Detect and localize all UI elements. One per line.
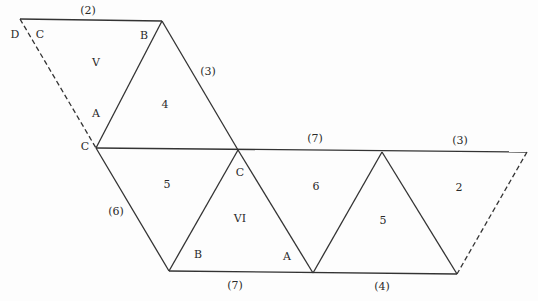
edge-T-CL [96,21,162,148]
edge-label: (7) [227,280,243,291]
vertex-label: D [11,29,20,40]
vertex-label: C [36,29,44,40]
edge-T-M [162,21,238,150]
vertex-label: A [283,251,291,262]
edge-label: (3) [200,66,216,77]
edge-label: (6) [108,206,124,217]
face-label: VI [234,213,246,224]
vertex-label: C [81,141,89,152]
face-label: 5 [164,179,171,190]
edge-R1-BR [382,152,457,274]
dashed-edge-RE-BR [457,152,527,274]
edge-label: (2) [80,5,96,16]
vertex-label: B [140,30,148,41]
dashed-edge-D-CL [20,19,96,148]
vertex-label: A [92,108,100,119]
edge-label: (7) [307,133,323,144]
edge-CL-BL [96,148,169,271]
face-label: 6 [313,181,320,192]
edge-BL-BR [169,271,457,274]
face-label: 4 [162,99,169,110]
edge-M-BM [238,150,313,273]
edge-label: (4) [374,281,390,292]
polyhedron-net-diagram: V45VI652DCBACCBA(2)(3)(7)(3)(6)(7)(4) [0,0,538,301]
vertex-label: B [194,249,202,260]
edge-label: (3) [452,135,468,146]
face-label: 5 [380,215,387,226]
vertex-label: C [236,167,244,178]
edge-BL-M [169,150,238,271]
edge-CL-RE [96,148,527,152]
face-label: 2 [456,182,463,193]
face-label: V [92,57,100,68]
edge-BM-R1 [313,152,382,273]
edge-D-T [20,19,162,21]
